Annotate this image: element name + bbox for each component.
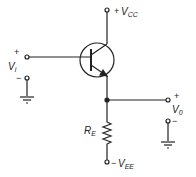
vi-label: Vi bbox=[8, 61, 17, 73]
vcc-label: VCC bbox=[121, 6, 139, 18]
vo-minus-terminal bbox=[166, 119, 170, 123]
ground-icon-input bbox=[20, 97, 34, 103]
vo-plus-sign: + bbox=[174, 91, 179, 101]
vee-sign: − bbox=[111, 158, 116, 168]
resistor-re bbox=[103, 120, 111, 160]
vo-label: V0 bbox=[172, 104, 183, 116]
vi-plus-sign: + bbox=[14, 47, 19, 57]
vi-plus-terminal bbox=[25, 55, 29, 59]
vo-minus-sign: − bbox=[172, 116, 177, 126]
vcc-terminal bbox=[105, 8, 109, 12]
circuit-diagram: + VCC + Vi − + V0 − RE − VEE bbox=[0, 0, 196, 177]
npn-transistor bbox=[80, 43, 114, 77]
vcc-sign: + bbox=[114, 6, 119, 16]
vee-terminal bbox=[105, 160, 109, 164]
vi-minus-sign: − bbox=[16, 73, 21, 83]
ground-icon-output bbox=[161, 142, 175, 148]
re-label: RE bbox=[84, 125, 96, 137]
vee-label: VEE bbox=[118, 158, 134, 170]
vo-plus-terminal bbox=[166, 98, 170, 102]
vi-minus-terminal bbox=[25, 76, 29, 80]
